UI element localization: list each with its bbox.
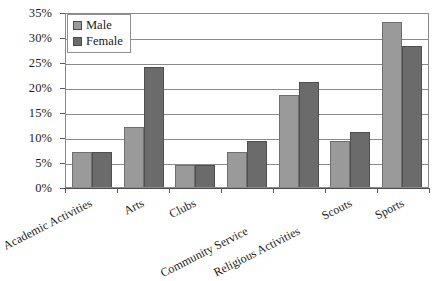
bar-group: [325, 14, 377, 187]
bar-male: [227, 152, 247, 187]
bar-group: [169, 14, 221, 187]
x-tick-mark: [221, 188, 222, 193]
bar-male: [124, 127, 144, 187]
x-category-label: Sports: [169, 197, 406, 281]
legend-label-female: Female: [86, 34, 123, 48]
bar-female: [299, 82, 319, 187]
y-tick-label: 35%: [29, 7, 52, 20]
bar-female: [92, 152, 112, 187]
y-tick-label: 15%: [29, 107, 52, 120]
x-category-label: Religious Activities: [65, 225, 302, 281]
x-tick-mark: [273, 188, 274, 193]
y-tick-label: 30%: [29, 32, 52, 45]
legend-item-female: Female: [73, 34, 123, 48]
legend-label-male: Male: [86, 18, 112, 32]
bar-male: [279, 95, 299, 188]
bar-male: [175, 165, 195, 188]
y-tick-label: 5%: [35, 157, 52, 170]
x-axis-line: [65, 188, 430, 189]
x-tick-mark: [65, 188, 66, 193]
x-category-label: Scouts: [117, 197, 354, 281]
y-axis-labels: 0%5%10%15%20%25%30%35%: [0, 0, 60, 201]
legend-swatch-male-icon: [73, 21, 82, 30]
legend-swatch-female-icon: [73, 37, 82, 46]
bar-female: [195, 165, 215, 188]
bar-group: [221, 14, 273, 187]
bar-male: [382, 22, 402, 187]
y-tick-label: 10%: [29, 132, 52, 145]
bar-group: [376, 14, 428, 187]
bar-female: [402, 46, 422, 188]
bar-female: [247, 141, 267, 188]
x-category-label: Clubs: [0, 197, 198, 281]
y-tick-label: 25%: [29, 57, 52, 70]
y-tick-label: 0%: [35, 182, 52, 195]
bar-group: [273, 14, 325, 187]
x-category-label: Academic Activities: [0, 197, 94, 281]
chart-legend: Male Female: [67, 14, 131, 53]
x-tick-mark: [117, 188, 118, 193]
x-tick-mark: [429, 188, 430, 193]
x-tick-mark: [325, 188, 326, 193]
y-tick-label: 20%: [29, 82, 52, 95]
x-category-label: Arts: [0, 197, 146, 281]
x-tick-mark: [377, 188, 378, 193]
x-category-label: Community Service: [13, 225, 250, 281]
bar-male: [72, 152, 92, 187]
legend-item-male: Male: [73, 18, 123, 32]
bar-female: [350, 132, 370, 187]
bar-female: [144, 67, 164, 187]
x-tick-mark: [169, 188, 170, 193]
bar-male: [330, 141, 350, 188]
